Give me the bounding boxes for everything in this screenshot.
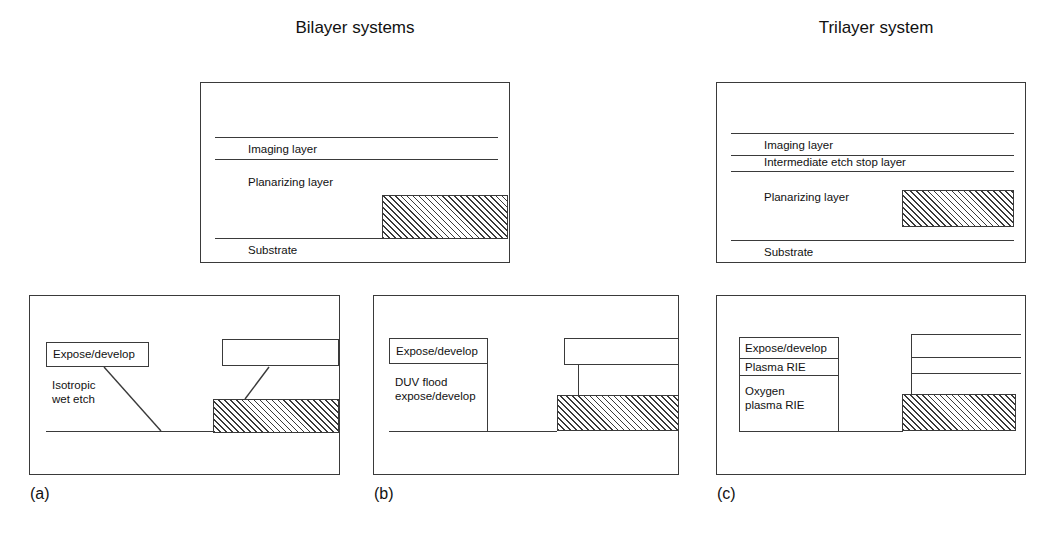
trilayer-imaging-layer-top-line: [731, 133, 1014, 134]
panel-b-substrate-topography-feature: [557, 395, 679, 431]
bilayer-imaging-layer-bottom-line: [215, 159, 498, 160]
panel-b-right-vertical-sidewall: [578, 365, 579, 396]
panel-b-expose-develop-box: Expose/develop: [389, 338, 488, 364]
panel-a-isotropic-profile-lines: [30, 296, 341, 476]
panel-c-caption: (c): [717, 485, 736, 503]
bilayer-planarizing-layer-label: Planarizing layer: [248, 176, 333, 189]
trilayer-substrate-topography-feature: [902, 190, 1014, 227]
trilayer-planarizing-layer-label: Planarizing layer: [764, 191, 849, 204]
panel-b-duv-flood-label-line2: expose/develop: [395, 390, 476, 403]
panel-c-imaging-layer-top-line: [911, 334, 1021, 335]
panel-c-imaging-layer-bottom-line: [911, 357, 1021, 358]
panel-c-oxygen-plasma-rie-label-line1: Oxygen: [745, 385, 785, 398]
panel-b-substrate-line-left: [389, 431, 557, 432]
panel-c-substrate-topography-feature: [902, 394, 1016, 431]
panel-c-expose-develop-label: Expose/develop: [745, 342, 827, 355]
panel-a-caption: (a): [30, 485, 50, 503]
panel-c-substrate-line-left: [739, 431, 903, 432]
panel-c-right-vertical-sidewall: [911, 334, 912, 394]
panel-b-imaging-layer-feature: [564, 338, 679, 365]
panel-b-left-vertical-sidewall: [487, 364, 488, 432]
trilayer-stack-panel: Imaging layer Intermediate etch stop lay…: [716, 82, 1026, 263]
lithography-process-figure: Bilayer systems Trilayer system Imaging …: [0, 0, 1055, 544]
trilayer-imaging-layer-label: Imaging layer: [764, 139, 833, 152]
panel-b-duv-flood-label-line1: DUV flood: [395, 376, 447, 389]
bilayer-title: Bilayer systems: [200, 18, 510, 38]
panel-c-plasma-rie: Expose/develop Plasma RIE Oxygen plasma …: [716, 295, 1026, 475]
bilayer-stack-panel: Imaging layer Planarizing layer Substrat…: [200, 82, 510, 263]
panel-b-duv-flood-expose: Expose/develop DUV flood expose/develop: [373, 295, 679, 475]
trilayer-title: Trilayer system: [726, 18, 1026, 38]
trilayer-substrate-label: Substrate: [764, 246, 813, 259]
bilayer-substrate-label: Substrate: [248, 244, 297, 257]
panel-a-isotropic-wet-etch: Expose/develop Isotropic wet etch: [29, 295, 340, 475]
trilayer-etch-stop-layer-label: Intermediate etch stop layer: [764, 156, 906, 169]
panel-c-oxygen-plasma-rie-label-line2: plasma RIE: [745, 399, 804, 412]
bilayer-imaging-layer-top-line: [215, 137, 498, 138]
panel-b-caption: (b): [374, 485, 394, 503]
panel-c-plasma-rie-box: Plasma RIE: [739, 358, 839, 376]
bilayer-substrate-topography-feature: [382, 195, 508, 239]
panel-c-oxygen-plasma-rie-box: Oxygen plasma RIE: [739, 375, 839, 432]
trilayer-etch-stop-bottom-line: [731, 171, 1014, 172]
bilayer-imaging-layer-label: Imaging layer: [248, 143, 317, 156]
panel-c-expose-develop-box: Expose/develop: [739, 337, 839, 359]
panel-c-plasma-rie-label: Plasma RIE: [745, 361, 806, 374]
trilayer-substrate-line: [731, 240, 1014, 241]
panel-c-etch-stop-bottom-line: [911, 373, 1021, 374]
panel-b-expose-develop-label: Expose/develop: [396, 345, 478, 358]
